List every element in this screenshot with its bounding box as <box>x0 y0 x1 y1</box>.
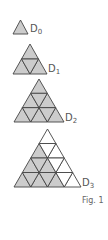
label-d1: D1 <box>48 64 60 76</box>
triangle-grid-d1 <box>13 44 47 74</box>
triangle-grid-d0 <box>13 20 28 34</box>
label-d3: D3 <box>82 178 94 190</box>
label-d0: D0 <box>30 24 42 36</box>
figure-caption: Fig. 1 <box>82 196 104 205</box>
label-d2: D2 <box>65 113 77 125</box>
triangle-grid-d2 <box>14 79 64 122</box>
triangle-grid-d3 <box>14 129 81 187</box>
